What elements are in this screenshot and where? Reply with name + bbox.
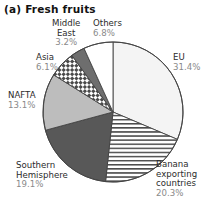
slice-label-banana-exporting-countries: Banana exporting countries 20.3% [156,160,197,198]
slice-label-middle-east: Middle East 3.2% [52,19,80,48]
slice-label-eu: EU 31.4% [173,53,200,72]
slice-label-others: Others 6.8% [93,19,122,38]
pie-chart-figure: (a) Fresh fruits Middle East 3.2% Others… [0,0,214,207]
slice-label-nafta: NAFTA 13.1% [8,91,36,110]
slice-value-middle-east: 3.2% [52,38,80,48]
slice-value-nafta: 13.1% [8,101,36,111]
slice-value-eu: 31.4% [173,63,200,73]
slice-value-others: 6.8% [93,29,122,39]
slice-value-asia: 6.1% [36,63,58,73]
slice-label-asia: Asia 6.1% [36,53,58,72]
slice-value-banana: 20.3% [156,189,197,199]
slice-label-southern-hemisphere: Southern Hemisphere 19.1% [16,161,68,190]
slice-value-southern: 19.1% [16,180,68,190]
